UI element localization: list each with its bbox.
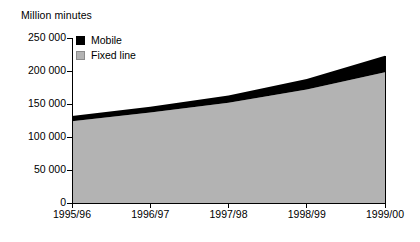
y-axis-label-0: 0 xyxy=(8,197,66,208)
legend-label-mobile: Mobile xyxy=(91,35,122,46)
y-axis-label-150000: 150 000 xyxy=(8,98,66,109)
chart-legend: Mobile Fixed line xyxy=(76,33,136,63)
legend-swatch-fixed-line xyxy=(76,51,85,60)
y-axis-label-100000: 100 000 xyxy=(8,131,66,142)
x-axis-label-1995-96: 1995/96 xyxy=(37,209,107,220)
legend-item-mobile: Mobile xyxy=(76,33,136,47)
legend-swatch-mobile xyxy=(76,36,85,45)
legend-label-fixed-line: Fixed line xyxy=(91,50,136,61)
legend-item-fixed-line: Fixed line xyxy=(76,48,136,62)
y-axis-label-250000: 250 000 xyxy=(8,32,66,43)
area-chart: Million minutes 250 000 200 000 150 000 … xyxy=(0,0,420,242)
y-axis-label-200000: 200 000 xyxy=(8,65,66,76)
x-axis-label-1998-99: 1998/99 xyxy=(272,209,342,220)
x-axis-label-1996-97: 1996/97 xyxy=(115,209,185,220)
x-axis-label-1997-98: 1997/98 xyxy=(194,209,264,220)
y-axis-label-50000: 50 000 xyxy=(8,164,66,175)
x-axis-label-1999-00: 1999/00 xyxy=(350,209,420,220)
area-series-fixed-line xyxy=(72,72,385,203)
